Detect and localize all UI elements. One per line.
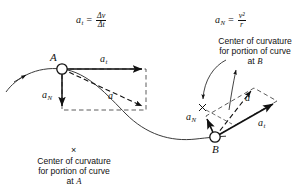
caption-a-line3: at A bbox=[12, 176, 136, 186]
center-of-curvature-marker-b bbox=[199, 104, 206, 111]
vector-label-tangential-b: at bbox=[258, 117, 265, 130]
caption-a-point: A bbox=[76, 176, 81, 186]
formula-at-denominator: Δt bbox=[96, 21, 106, 29]
point-a-marker bbox=[57, 64, 67, 74]
vector-b-n-sub: N bbox=[191, 116, 196, 123]
caption-b-line2: for portion of curve bbox=[205, 46, 305, 56]
formula-an-denominator: r bbox=[238, 21, 246, 29]
caption-b-point: B bbox=[257, 56, 262, 66]
radius-line-b bbox=[206, 110, 232, 124]
formula-at-fraction: Δv Δt bbox=[96, 12, 106, 30]
acceleration-components-figure: at = Δv Δt aN = v² r A B at aN a aN at a… bbox=[0, 0, 308, 195]
resultant-vector-a bbox=[62, 69, 142, 106]
trajectory-curve bbox=[6, 69, 215, 140]
parallelogram-at-a bbox=[62, 69, 146, 110]
vector-b-t-sub: t bbox=[263, 122, 265, 129]
formula-an-fraction: v² r bbox=[238, 12, 246, 30]
vector-label-tangential-a: at bbox=[100, 53, 107, 66]
formula-normal-acceleration: aN = v² r bbox=[215, 12, 246, 30]
caption-b-line3: at B bbox=[205, 56, 305, 66]
formula-at-subscript: t bbox=[81, 19, 83, 26]
formula-tangential-acceleration: at = Δv Δt bbox=[76, 12, 106, 30]
vector-a-res-base: a bbox=[108, 90, 113, 101]
vector-a-t-sub: t bbox=[105, 58, 107, 65]
formula-at-equals: = bbox=[86, 14, 93, 25]
caption-center-of-curvature-a: Center of curvature for portion of curve… bbox=[12, 156, 136, 186]
center-of-curvature-marker-a: × bbox=[71, 145, 76, 156]
vector-a-n-sub: N bbox=[47, 94, 52, 101]
point-a-label: A bbox=[50, 51, 57, 64]
vector-label-normal-a: aN bbox=[42, 89, 52, 102]
point-b-marker bbox=[210, 132, 220, 142]
caption-b-line1: Center of curvature bbox=[205, 36, 305, 46]
formula-an-equals: = bbox=[227, 14, 234, 25]
caption-a-at: at bbox=[67, 176, 77, 186]
formula-an-subscript: N bbox=[220, 19, 225, 26]
caption-b-at: at bbox=[248, 56, 258, 66]
vector-label-resultant-b: a bbox=[245, 92, 250, 104]
vector-label-resultant-a: a bbox=[108, 90, 113, 102]
caption-center-of-curvature-b: Center of curvature for portion of curve… bbox=[205, 36, 305, 66]
parallelogram-at-b bbox=[206, 88, 277, 137]
motion-direction-arrow bbox=[14, 75, 26, 82]
vector-b-res-base: a bbox=[245, 92, 250, 103]
caption-a-line1: Center of curvature bbox=[12, 156, 136, 166]
leader-arrow-from-b-vectors bbox=[229, 70, 236, 110]
caption-a-line2: for portion of curve bbox=[12, 166, 136, 176]
point-b-label: B bbox=[212, 143, 219, 156]
vector-label-normal-b: aN bbox=[186, 111, 196, 124]
